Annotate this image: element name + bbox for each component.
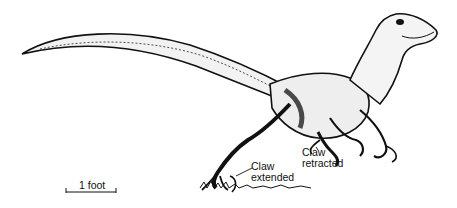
claw-extended-leader <box>236 168 252 176</box>
claw-retracted-label: Claw retracted <box>302 147 343 169</box>
dinosaur-illustration <box>0 0 457 208</box>
claw-retracted-line2: retracted <box>302 158 343 169</box>
claw-extended-label: Claw extended <box>251 161 294 183</box>
tail <box>22 34 292 104</box>
neck <box>350 14 437 104</box>
scale-bar-label: 1 foot <box>79 179 105 191</box>
claw-extended-line2: extended <box>251 172 294 183</box>
eye <box>396 19 404 25</box>
